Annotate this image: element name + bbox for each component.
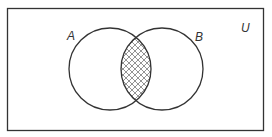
set-a-label: A [66,29,75,43]
universe-label: U [241,21,250,35]
venn-diagram: A B U [0,0,272,137]
set-b-label: B [195,30,203,44]
